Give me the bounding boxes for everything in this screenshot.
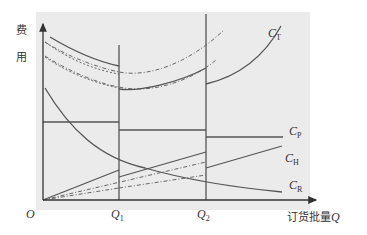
- q1-label: Q1: [111, 207, 124, 223]
- origin-label: O: [26, 207, 35, 222]
- cr-label: CR: [289, 178, 302, 194]
- ch-label: CH: [285, 151, 299, 167]
- cp-label: CP: [289, 124, 301, 140]
- x-axis-title: 订货批量Q: [287, 208, 340, 225]
- q2-label: Q2: [197, 207, 210, 223]
- y-axis-label-1: 费: [16, 21, 27, 37]
- ct-label: CT: [268, 26, 281, 42]
- y-axis-label-2: 用: [16, 48, 27, 64]
- cost-chart: [0, 0, 367, 235]
